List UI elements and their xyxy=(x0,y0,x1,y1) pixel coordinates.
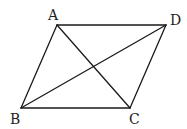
vertex-label-a: A xyxy=(47,7,59,23)
vertex-label-c: C xyxy=(129,111,140,127)
side-DC xyxy=(130,25,166,108)
vertex-label-d: D xyxy=(170,12,181,28)
parallelogram-diagram: A B C D xyxy=(0,0,187,129)
side-BA xyxy=(21,25,57,108)
vertex-label-b: B xyxy=(10,111,20,127)
edges-group xyxy=(21,25,166,108)
diagonal-BD xyxy=(21,25,166,108)
